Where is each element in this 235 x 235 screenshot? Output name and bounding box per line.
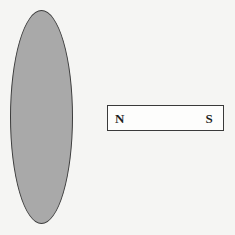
south-pole-label: S	[206, 112, 213, 125]
physics-diagram-canvas: N S	[0, 0, 235, 235]
conducting-loop-ellipse	[10, 10, 73, 224]
bar-magnet-rectangle: N S	[107, 105, 224, 131]
north-pole-label: N	[115, 112, 125, 125]
